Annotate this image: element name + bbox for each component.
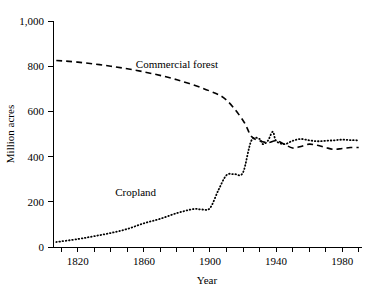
series-annotation-label: Cropland — [115, 186, 156, 198]
y-tick-label: 200 — [28, 196, 45, 208]
y-tick-label: 400 — [28, 151, 45, 163]
series-annotation-label: Commercial forest — [136, 58, 218, 70]
x-tick-label: 1900 — [199, 255, 222, 267]
x-tick-label: 1980 — [331, 255, 354, 267]
series-line-cropland — [56, 132, 358, 242]
x-axis-title: Year — [197, 274, 218, 286]
y-tick-label: 1,000 — [19, 15, 44, 27]
y-tick-label: 800 — [28, 60, 45, 72]
x-tick-group — [61, 247, 358, 252]
land-use-line-chart: 02004006008001,000 18201860190019401980 … — [0, 0, 370, 288]
y-tick-label: 0 — [39, 241, 45, 253]
x-tick-label: 1860 — [133, 255, 156, 267]
y-axis-title: Million acres — [4, 105, 16, 163]
y-tick-group — [48, 21, 53, 247]
x-tick-label: 1820 — [67, 255, 90, 267]
x-tick-label: 1940 — [265, 255, 288, 267]
y-tick-label: 600 — [28, 105, 45, 117]
series-annotation-group: Commercial forestCropland — [115, 58, 218, 198]
series-line-commercial-forest — [56, 61, 358, 150]
x-tick-label-group: 18201860190019401980 — [67, 255, 354, 267]
y-tick-label-group: 02004006008001,000 — [19, 15, 44, 253]
chart-container: 02004006008001,000 18201860190019401980 … — [0, 0, 370, 288]
